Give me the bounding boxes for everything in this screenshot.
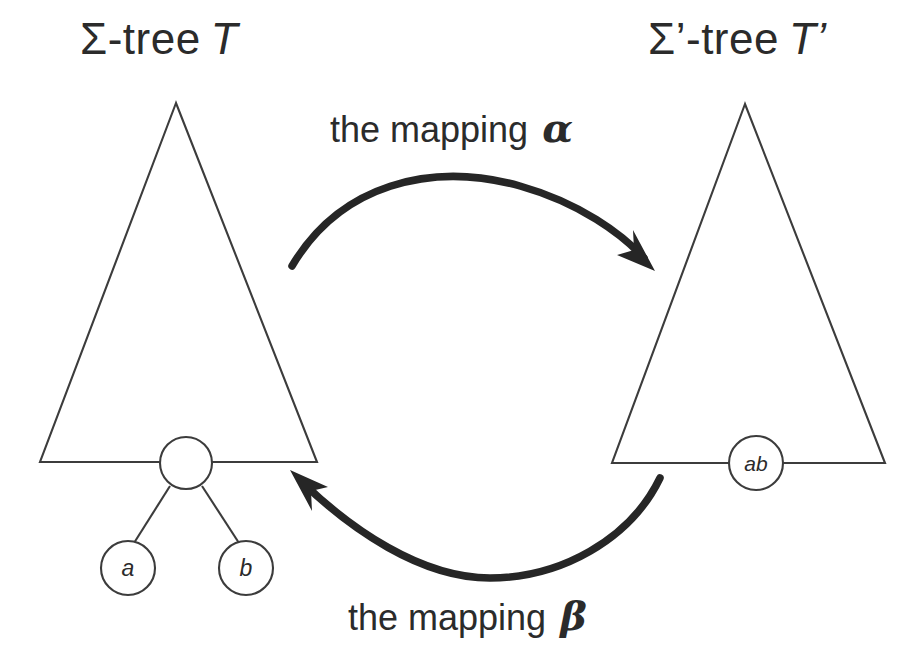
left-tree-edge-to-b: [202, 486, 239, 543]
diagram-graphics: a b ab: [0, 0, 914, 661]
left-tree-group: a b: [40, 103, 317, 595]
alpha-arrow-curve: [292, 177, 644, 266]
right-tree-group: ab: [612, 104, 885, 490]
left-tree-root-node: [160, 437, 212, 489]
node-a-label: a: [122, 555, 135, 581]
diagram-canvas: Σ-treeT Σ’-treeT’ the mappingα the mappi…: [0, 0, 914, 661]
left-tree-child-node-b: b: [219, 541, 273, 595]
left-tree-edge-to-a: [134, 486, 170, 543]
beta-arrow-curve: [303, 478, 660, 578]
node-ab-label: ab: [744, 452, 768, 475]
mapping-beta-arrow: [290, 470, 660, 578]
right-tree-node-ab: ab: [729, 436, 783, 490]
node-b-label: b: [240, 555, 253, 581]
left-tree-child-node-a: a: [101, 541, 155, 595]
left-tree-triangle: [40, 103, 317, 462]
right-tree-triangle: [612, 104, 885, 463]
mapping-alpha-arrow: [292, 177, 655, 271]
